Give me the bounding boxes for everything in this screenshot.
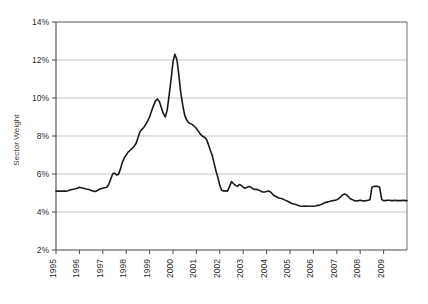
- x-tick-label: 1995: [48, 259, 58, 278]
- y-tick-label: 12%: [32, 55, 49, 65]
- y-tick-label: 4%: [37, 207, 50, 217]
- y-tick-label: 6%: [37, 169, 50, 179]
- x-tick-label: 1998: [118, 259, 128, 278]
- x-tick-label: 2006: [305, 259, 315, 278]
- chart-canvas: 2%4%6%8%10%12%14% 1995199619971998199920…: [0, 0, 428, 304]
- y-tick-label: 8%: [37, 131, 50, 141]
- x-tick-label: 1997: [95, 259, 105, 278]
- x-tick-label: 2005: [282, 259, 292, 278]
- x-tick-label: 2007: [329, 259, 339, 278]
- x-tick-label: 2009: [376, 259, 386, 278]
- y-axis-title: Sector Weight: [12, 114, 21, 166]
- chart-background: [0, 0, 428, 304]
- x-tick-label: 1999: [142, 259, 152, 278]
- y-tick-label: 14%: [32, 17, 49, 27]
- sector-weight-line-chart: 2%4%6%8%10%12%14% 1995199619971998199920…: [0, 0, 428, 304]
- x-tick-label: 2000: [165, 259, 175, 278]
- x-tick-label: 2002: [212, 259, 222, 278]
- x-tick-label: 2008: [352, 259, 362, 278]
- x-tick-label: 2001: [188, 259, 198, 278]
- x-tick-label: 1996: [71, 259, 81, 278]
- x-tick-label: 2003: [235, 259, 245, 278]
- x-tick-label: 2004: [259, 259, 269, 278]
- y-tick-label: 2%: [37, 245, 50, 255]
- y-tick-label: 10%: [32, 93, 49, 103]
